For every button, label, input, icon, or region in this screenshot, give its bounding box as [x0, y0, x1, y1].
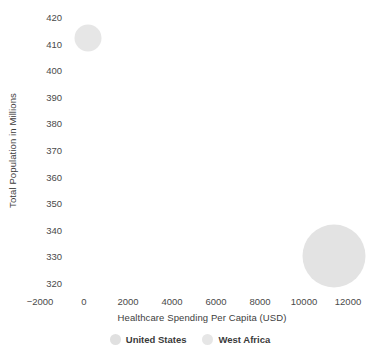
legend-swatch-circle-icon — [110, 334, 121, 345]
data-bubble[interactable] — [302, 225, 365, 288]
legend-item-label: United States — [126, 334, 187, 345]
legend-item-label: West Africa — [218, 334, 270, 345]
data-bubble[interactable] — [75, 25, 102, 52]
bubble-chart: Total Population in Millions 32033034035… — [0, 0, 380, 363]
x-axis-tick-label: 12000 — [318, 296, 378, 307]
x-axis-title: Healthcare Spending Per Capita (USD) — [24, 312, 380, 323]
legend-swatch-circle-icon — [202, 334, 213, 345]
legend-item[interactable]: West Africa — [202, 334, 270, 345]
plot-area — [0, 0, 380, 293]
chart-legend: United StatesWest Africa — [0, 334, 380, 345]
legend-item[interactable]: United States — [110, 334, 187, 345]
